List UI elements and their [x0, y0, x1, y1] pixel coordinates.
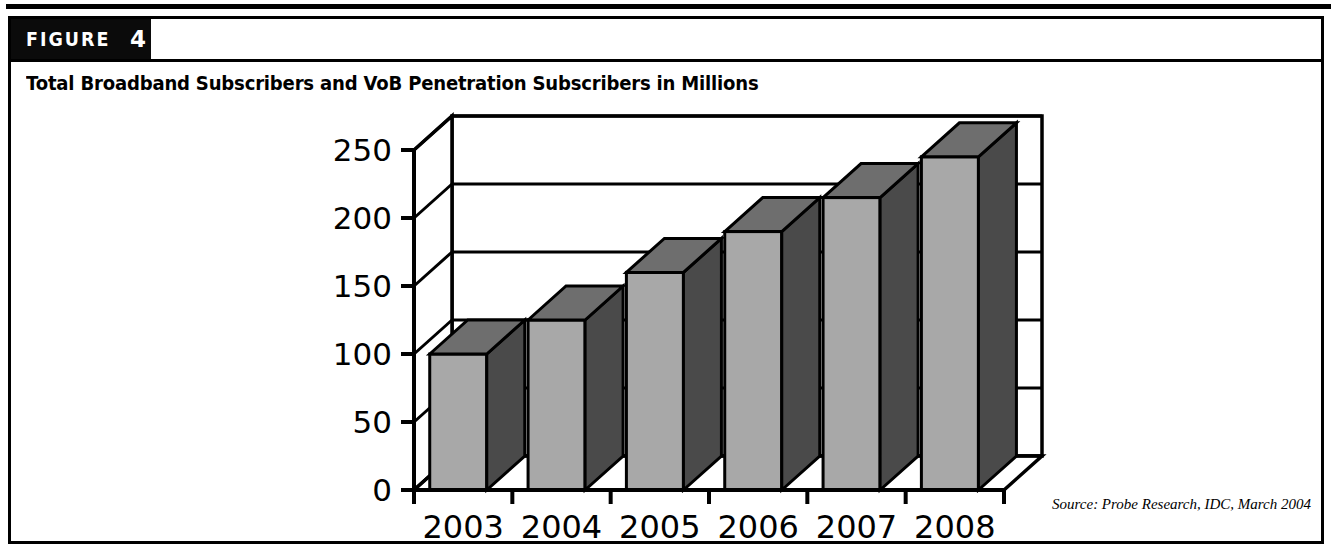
bar-group[interactable] [823, 164, 918, 490]
bar-front-face[interactable] [725, 232, 782, 490]
x-axis-label: 2006 [717, 508, 798, 538]
bar-front-face[interactable] [823, 198, 880, 490]
bar-side-face[interactable] [880, 164, 918, 490]
bar-group[interactable] [725, 198, 820, 490]
bar-group[interactable] [626, 238, 721, 490]
x-axis-label: 2008 [914, 508, 995, 538]
y-axis-label: 50 [353, 404, 392, 440]
bar-chart: 050100150200250200320042005200620072008 [14, 108, 1314, 538]
bar-front-face[interactable] [430, 354, 487, 490]
bar-front-face[interactable] [921, 157, 978, 490]
bar-side-face[interactable] [683, 238, 721, 490]
x-axis-label: 2003 [422, 508, 503, 538]
bar-side-face[interactable] [782, 198, 820, 490]
chart-canvas: 050100150200250200320042005200620072008 [14, 108, 1314, 538]
bar-group[interactable] [430, 320, 525, 490]
figure-page: FIGURE 4 Total Broadband Subscribers and… [0, 0, 1337, 558]
figure-badge: FIGURE 4 [11, 19, 151, 59]
x-axis-label: 2004 [521, 508, 602, 538]
y-axis-label: 200 [333, 200, 392, 236]
figure-badge-number: 4 [130, 26, 146, 52]
badge-divider [11, 59, 1321, 62]
source-note: Source: Probe Research, IDC, March 2004 [1052, 496, 1311, 513]
bar-front-face[interactable] [528, 320, 585, 490]
bar-side-face[interactable] [978, 123, 1016, 490]
x-axis-label: 2007 [816, 508, 897, 538]
y-axis-label: 100 [333, 336, 392, 372]
y-axis-label: 0 [372, 472, 392, 508]
bar-front-face[interactable] [626, 272, 683, 490]
x-axis-label: 2005 [619, 508, 700, 538]
bar-group[interactable] [528, 286, 623, 490]
top-rule [6, 4, 1331, 9]
bar-group[interactable] [921, 123, 1016, 490]
y-axis-label: 150 [333, 268, 392, 304]
figure-badge-word: FIGURE [26, 28, 111, 50]
figure-caption: Total Broadband Subscribers and VoB Pene… [26, 72, 976, 102]
y-axis-label: 250 [333, 132, 392, 168]
